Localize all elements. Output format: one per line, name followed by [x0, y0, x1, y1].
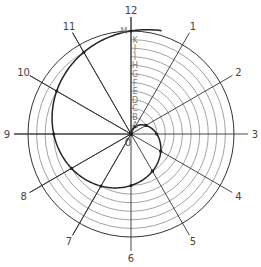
spiral-point [155, 132, 158, 135]
center-label: 0 [125, 137, 131, 148]
step-letter: G [132, 70, 138, 79]
step-letter: E [132, 87, 137, 96]
radial-label: 5 [190, 236, 196, 247]
step-letter: C [132, 104, 138, 113]
spiral-point [82, 51, 85, 54]
radial-line [73, 33, 132, 134]
step-letter: M [121, 27, 128, 36]
step-letter: B [132, 113, 138, 122]
radial-label: 7 [66, 236, 72, 247]
radial-label: 3 [252, 129, 258, 140]
step-letter: K [132, 36, 138, 45]
radial-label: 4 [235, 191, 241, 202]
radial-label: 11 [63, 21, 76, 32]
spiral-point [151, 170, 154, 173]
spiral-point [99, 184, 102, 187]
step-letter: I [134, 53, 136, 62]
radial-line [30, 134, 131, 193]
radial-line [30, 76, 131, 135]
spiral-point [52, 132, 55, 135]
spiral-point [129, 184, 132, 187]
center-point [129, 132, 133, 136]
spiral-point [144, 124, 147, 127]
step-letter: H [132, 61, 138, 70]
spiral-point [159, 150, 162, 153]
radial-label: 1 [190, 21, 196, 32]
radial-label: 8 [20, 191, 26, 202]
step-letter: D [132, 96, 138, 105]
step-letter: A [132, 121, 138, 130]
step-letter: J [133, 44, 136, 53]
radial-label: 6 [128, 253, 134, 264]
radial-label: 2 [235, 67, 241, 78]
radial-label: 12 [125, 5, 138, 16]
radial-label: 10 [17, 67, 30, 78]
spiral-diagram: 1234567891011120 ABCDEFGHIJKM [0, 0, 261, 267]
spiral-point [70, 167, 73, 170]
step-letters: ABCDEFGHIJKM [121, 27, 139, 130]
spiral-point [55, 89, 58, 92]
step-letter: F [133, 79, 138, 88]
radial-label: 9 [4, 129, 10, 140]
spiral-point [129, 29, 132, 32]
